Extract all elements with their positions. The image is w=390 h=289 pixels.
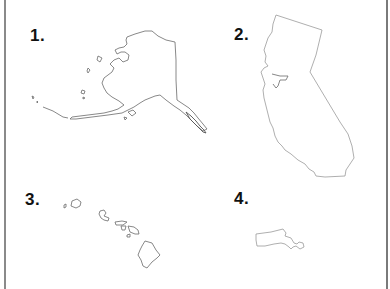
california-outline (261, 15, 354, 177)
massachusetts-outline (256, 229, 304, 249)
alaska-outline (32, 31, 207, 133)
hawaii-outline (64, 199, 160, 268)
state-outlines (0, 0, 390, 289)
